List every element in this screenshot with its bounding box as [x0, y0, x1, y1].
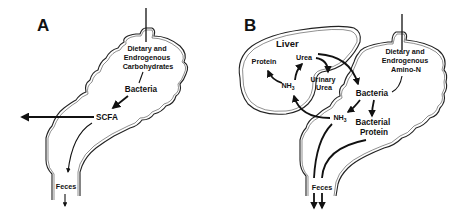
arrow-bacteria-to-bacterial-protein: [372, 100, 374, 116]
arrow-nh3-to-urea: [295, 64, 302, 80]
protein-label: Protein: [252, 57, 277, 66]
urea-label: Urea: [296, 53, 313, 62]
arrow-source-to-bacteria-b: [392, 76, 402, 92]
panel-a: A Dietary and Endrogenous Carbohydrates …: [22, 8, 188, 206]
arrow-nh3-to-protein: [268, 71, 282, 83]
figure-canvas: A Dietary and Endrogenous Carbohydrates …: [0, 0, 455, 216]
arrow-source-to-bacteria-a: [139, 72, 143, 83]
bacterial-protein-label: Bacterial Protein: [356, 118, 393, 137]
panel-a-label: A: [37, 16, 49, 35]
feces-label-a: Feces: [56, 182, 76, 191]
liver-label: Liver: [276, 38, 299, 49]
nh3-liver-label: NH3: [281, 81, 294, 91]
liver-outline: [239, 26, 360, 114]
panel-b: B Liver Dietary and Endrogenous Amino-N …: [239, 14, 446, 208]
source-label-b: Dietary and Endrogenous Amino-N: [382, 47, 430, 74]
panel-b-label: B: [244, 16, 256, 35]
nh3-colon-label: NH3: [333, 113, 346, 123]
bacteria-label-b: Bacteria: [356, 89, 389, 98]
arrow-bacteria-to-scfa: [113, 96, 128, 108]
bacteria-label-a: Bacteria: [125, 85, 158, 94]
urinary-urea-label: Urinary Urea: [310, 75, 337, 92]
scfa-label: SCFA: [96, 113, 118, 122]
arrow-bacteria-to-nh3: [348, 100, 360, 112]
feces-label-b: Feces: [312, 183, 332, 192]
source-label-a: Dietary and Endrogenous Carbohydrates: [123, 44, 174, 71]
